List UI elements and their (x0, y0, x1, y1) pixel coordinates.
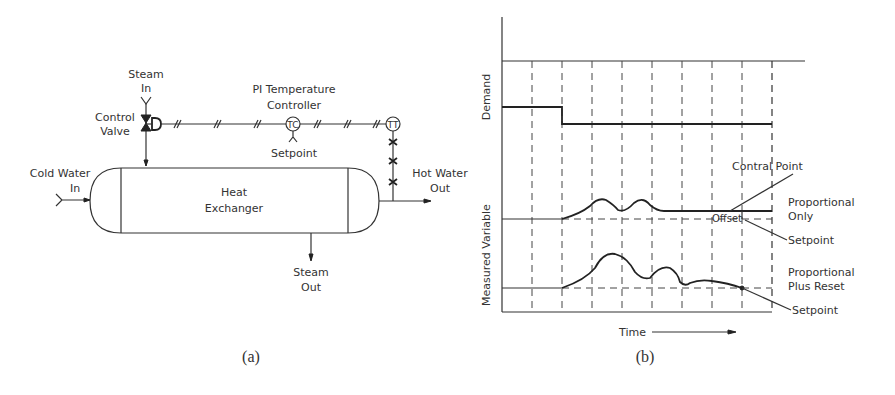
figure-canvas: Steam In Control Valve PI Temperature Co… (0, 0, 895, 395)
control-valve-label-1: Control (95, 111, 135, 124)
valve-actuator-icon (152, 118, 161, 130)
steam-pipe-arrow-icon (144, 160, 148, 166)
proportional-only-label-2: Only (788, 210, 814, 223)
cold-water-inlet-icon (56, 194, 88, 206)
tt-symbol: TT (387, 120, 399, 130)
cold-water-label-2: In (70, 182, 80, 195)
time-axis-label: Time (618, 326, 646, 339)
heat-exchanger-label-2: Exchanger (205, 202, 264, 215)
proportional-only-label-1: Proportional (788, 196, 855, 209)
controller-label-1: PI Temperature (252, 83, 335, 96)
caption-a: (a) (242, 348, 260, 366)
steam-out-arrow-icon (309, 254, 313, 261)
demand-axis-label: Demand (480, 74, 493, 121)
controller-label-2: Controller (267, 99, 322, 112)
hot-water-label-2: Out (430, 182, 451, 195)
steam-out-label-2: Out (301, 281, 322, 294)
control-point-leader (730, 174, 793, 211)
time-arrow-icon (728, 330, 736, 334)
response-plot: Demand Measured Variable Contral Point O… (480, 17, 855, 366)
control-valve-label-2: Valve (100, 125, 130, 138)
steam-in-label-1: Steam (128, 68, 164, 81)
setpoint-1-leader (745, 220, 787, 240)
process-diagram: Steam In Control Valve PI Temperature Co… (30, 68, 468, 366)
setpoint-label: Setpoint (271, 147, 318, 160)
steam-inlet-icon (141, 97, 151, 104)
offset-label: Offset (712, 213, 742, 224)
cold-water-arrow-icon (84, 198, 90, 202)
proportional-plus-reset-label-1: Proportional (788, 266, 855, 279)
measured-variable-axis-label: Measured Variable (480, 204, 493, 306)
heat-exchanger-label-1: Heat (221, 186, 248, 199)
cold-water-label-1: Cold Water (30, 167, 91, 180)
control-valve-icon[interactable] (141, 115, 151, 131)
caption-b: (b) (636, 348, 655, 366)
steam-out-label-1: Steam (293, 266, 329, 279)
control-point-label: Contral Point (732, 160, 804, 173)
steam-in-label-2: In (141, 82, 151, 95)
setpoint-2-label: Setpoint (792, 304, 839, 317)
hot-water-label-1: Hot Water (412, 167, 468, 180)
proportional-plus-reset-label-2: Plus Reset (788, 280, 845, 293)
tc-symbol: TC (286, 120, 298, 130)
demand-series (502, 107, 772, 124)
setpoint-1-label: Setpoint (788, 234, 835, 247)
setpoint-2-leader (742, 288, 791, 310)
heat-exchanger-vessel[interactable] (90, 168, 379, 233)
hot-water-arrow-icon (424, 199, 431, 203)
setpoint-input-icon (289, 131, 297, 142)
